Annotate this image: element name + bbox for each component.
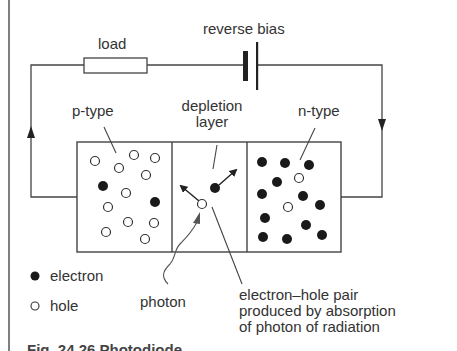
current-arrow-down-icon (378, 119, 386, 131)
depletion-layer-label: depletion layer (172, 98, 252, 130)
pair-label-line1: electron–hole pair (239, 287, 396, 303)
pair-label-line2: produced by absorption (239, 303, 396, 319)
n-type-region (257, 157, 327, 244)
legend-electron-icon (31, 272, 40, 281)
electron-particle (210, 183, 220, 193)
reverse-bias-label: reverse bias (203, 21, 285, 37)
current-arrow-up-icon (27, 126, 35, 138)
photon-label: photon (140, 294, 186, 310)
figure-caption: Fig. 24.26 Photodiode (27, 342, 182, 351)
depletion-label-line1: depletion (172, 98, 252, 114)
pair-label-line3: of photon of radiation (239, 319, 396, 335)
legend-hole-icon (31, 302, 39, 310)
p-type-region (91, 151, 161, 244)
load-resistor (84, 58, 147, 73)
battery-icon (243, 42, 258, 90)
legend-hole-label: hole (50, 298, 78, 314)
electron-hole-pair (181, 170, 236, 209)
photon-wave-icon (164, 222, 197, 284)
circuit-wire (31, 65, 382, 197)
load-label: load (98, 36, 126, 52)
photon-arrowhead-icon (193, 212, 200, 224)
p-type-label: p-type (72, 103, 114, 119)
hole-particle (198, 200, 207, 209)
n-type-label: n-type (298, 103, 340, 119)
depletion-label-line2: layer (172, 114, 252, 130)
photodiode-diagram: load reverse bias p-type depletion layer… (0, 0, 457, 351)
electron-hole-pair-label: electron–hole pair produced by absorptio… (239, 287, 396, 335)
legend-electron-label: electron (50, 268, 103, 284)
